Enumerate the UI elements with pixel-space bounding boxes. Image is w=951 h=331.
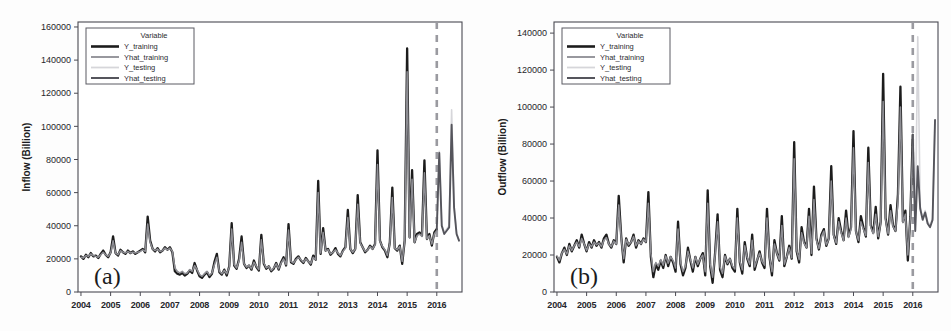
- legend-label-yhat-testing: Yhat_testing: [124, 74, 166, 83]
- y-tick-label: 160000: [41, 22, 71, 32]
- legend-label-yhat-training: Yhat_training: [124, 53, 168, 62]
- x-tick-label: 2007: [636, 300, 655, 310]
- legend-label-y-training: Y_training: [600, 42, 634, 51]
- legend-label-y-testing: Y_testing: [124, 63, 155, 72]
- x-tick-label: 2012: [309, 300, 328, 310]
- x-tick-label: 2008: [190, 300, 209, 310]
- y-tick-label: 120000: [41, 88, 71, 98]
- y-tick-label: 0: [542, 287, 547, 297]
- x-tick-label: 2007: [160, 300, 179, 310]
- y-tick-label: 100000: [517, 102, 547, 112]
- chart-svg-a: 0200004000060000800001000001200001400001…: [0, 0, 475, 331]
- y-tick-label: 80000: [522, 139, 547, 149]
- legend-title: Variable: [141, 31, 168, 40]
- x-tick-label: 2009: [696, 300, 715, 310]
- legend-label-y-testing: Y_testing: [600, 63, 631, 72]
- x-tick-label: 2013: [814, 300, 833, 310]
- legend-label-yhat-testing: Yhat_testing: [600, 74, 642, 83]
- chart-svg-b: 0200004000060000800001000001200001400002…: [476, 0, 951, 331]
- legend-label-y-training: Y_training: [124, 42, 158, 51]
- x-tick-label: 2004: [547, 300, 566, 310]
- chart-panel-a: 0200004000060000800001000001200001400001…: [0, 0, 475, 331]
- y-tick-label: 20000: [46, 254, 71, 264]
- figure-container: 0200004000060000800001000001200001400001…: [0, 0, 951, 331]
- x-tick-label: 2005: [101, 300, 120, 310]
- y-tick-label: 60000: [46, 188, 71, 198]
- x-tick-label: 2004: [71, 300, 90, 310]
- x-tick-label: 2016: [427, 300, 446, 310]
- x-tick-label: 2012: [785, 300, 804, 310]
- y-tick-label: 60000: [522, 176, 547, 186]
- x-tick-label: 2014: [368, 300, 387, 310]
- x-tick-label: 2015: [398, 300, 417, 310]
- x-tick-label: 2011: [755, 300, 774, 310]
- x-tick-label: 2006: [131, 300, 150, 310]
- y-tick-label: 20000: [522, 250, 547, 260]
- x-tick-label: 2008: [666, 300, 685, 310]
- panel-label: (a): [94, 263, 121, 289]
- x-tick-label: 2014: [844, 300, 863, 310]
- x-tick-label: 2016: [903, 300, 922, 310]
- x-tick-label: 2013: [338, 300, 357, 310]
- x-tick-label: 2015: [874, 300, 893, 310]
- y-tick-label: 140000: [41, 55, 71, 65]
- y-tick-label: 140000: [517, 28, 547, 38]
- x-tick-label: 2010: [249, 300, 268, 310]
- y-tick-label: 0: [66, 287, 71, 297]
- y-tick-label: 40000: [46, 221, 71, 231]
- y-axis-title: Inflow (Billion): [21, 123, 32, 192]
- legend-label-yhat-training: Yhat_training: [600, 53, 644, 62]
- y-axis-title: Outflow (Billion): [497, 118, 508, 195]
- x-tick-label: 2009: [220, 300, 239, 310]
- y-tick-label: 80000: [46, 155, 71, 165]
- y-tick-label: 100000: [41, 122, 71, 132]
- y-tick-label: 40000: [522, 213, 547, 223]
- x-tick-label: 2005: [577, 300, 596, 310]
- y-tick-label: 120000: [517, 65, 547, 75]
- chart-panel-b: 0200004000060000800001000001200001400002…: [476, 0, 951, 331]
- x-tick-label: 2010: [725, 300, 744, 310]
- panel-label: (b): [570, 263, 598, 289]
- x-tick-label: 2011: [279, 300, 298, 310]
- legend-title: Variable: [617, 31, 644, 40]
- x-tick-label: 2006: [607, 300, 626, 310]
